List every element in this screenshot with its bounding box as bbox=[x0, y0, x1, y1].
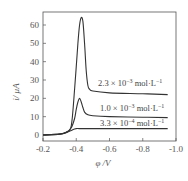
y-axis-ticks: 0102030405060 bbox=[30, 20, 46, 140]
y-tick-label: 60 bbox=[30, 20, 40, 30]
concentration-label: 1.0 × 10−3 mol·L−1 bbox=[100, 103, 164, 113]
y-tick-label: 50 bbox=[30, 38, 40, 48]
curve-3-3e-4 bbox=[43, 129, 168, 135]
concentration-label: 3.3 × 10−4 mol·L−1 bbox=[100, 118, 164, 128]
x-axis-title: φ /V bbox=[95, 158, 112, 168]
x-tick-label: -0.6 bbox=[102, 144, 117, 154]
y-tick-label: 0 bbox=[35, 130, 40, 140]
x-tick-label: -0.2 bbox=[36, 144, 50, 154]
x-tick-label: -0.8 bbox=[136, 144, 151, 154]
y-tick-label: 30 bbox=[30, 75, 40, 85]
x-axis-ticks: -0.2-0.4-0.6-0.8-1.0 bbox=[36, 138, 184, 154]
x-tick-label: -0.4 bbox=[69, 144, 84, 154]
y-tick-label: 10 bbox=[30, 112, 40, 122]
y-tick-label: 20 bbox=[30, 93, 40, 103]
concentration-label: 2.3 × 10−3 mol·L−1 bbox=[98, 78, 162, 88]
y-tick-label: 40 bbox=[30, 57, 40, 67]
concentration-labels: 2.3 × 10−3 mol·L−11.0 × 10−3 mol·L−13.3 … bbox=[98, 78, 164, 128]
y-axis-title: i/ μA bbox=[11, 83, 21, 101]
voltammogram-chart: 0102030405060 -0.2-0.4-0.6-0.8-1.0 2.3 ×… bbox=[0, 0, 188, 181]
x-tick-label: -1.0 bbox=[169, 144, 184, 154]
